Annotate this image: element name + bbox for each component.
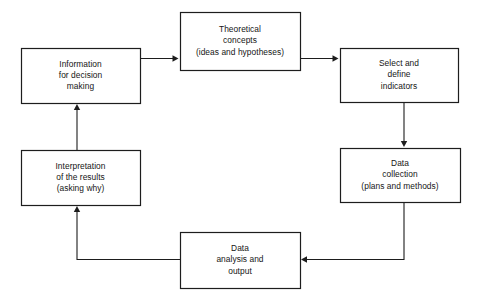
interpretation-of-the-results-box <box>22 151 141 206</box>
arrow-indicators-to-collection-head <box>401 141 407 147</box>
data-collection-box <box>341 149 461 203</box>
information-for-decision-making-box <box>22 49 141 104</box>
arrow-analysis-to-interpretation <box>77 208 180 260</box>
arrow-analysis-to-interpretation-head <box>74 206 80 212</box>
arrow-interpretation-to-information-head <box>74 104 80 110</box>
flowchart-diagram: Informationfor decisionmakingTheoretical… <box>0 0 478 301</box>
select-and-define-indicators-box <box>341 49 459 103</box>
arrow-information-to-theoretical-head <box>173 55 179 61</box>
theoretical-concepts-box <box>181 13 301 71</box>
node-box-layer <box>22 13 461 289</box>
flowchart-canvas <box>0 0 478 301</box>
data-analysis-and-output-box <box>181 233 301 289</box>
arrow-collection-to-analysis-head <box>301 256 307 262</box>
arrow-collection-to-analysis <box>303 202 404 260</box>
arrow-theoretical-to-indicators-head <box>333 55 339 61</box>
